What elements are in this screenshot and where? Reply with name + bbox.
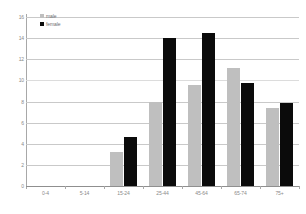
x-axis-line [26,186,299,187]
x-tick-label: 0-4 [26,190,65,204]
bar-group [65,17,104,186]
y-tick-label: 0 [2,183,24,189]
bar-male [227,68,240,186]
x-tick-mark [260,186,261,189]
legend-swatch-female-icon [40,22,44,26]
bar-female [202,33,215,186]
y-axis: 0246810121416 [0,0,24,214]
bar-group [260,17,299,186]
bar-groups [26,17,299,186]
y-tick-label: 14 [2,35,24,41]
x-tick-mark [221,186,222,189]
legend-label-female: female [46,21,60,27]
x-tick-label: 65-74 [221,190,260,204]
legend-swatch-male-icon [40,14,44,18]
x-tick-label: 5-14 [65,190,104,204]
bar-group [104,17,143,186]
y-tick-label: 12 [2,56,24,62]
bar-group [221,17,260,186]
bar-female [241,83,254,187]
bar-female [280,103,293,186]
x-tick-label: 25-44 [143,190,182,204]
bar-male [149,102,162,187]
x-tick-mark [299,186,300,189]
bar-group [182,17,221,186]
y-tick-label: 8 [2,99,24,105]
x-tick-label: 75+ [260,190,299,204]
bar-female [124,137,137,186]
bar-male [110,152,123,186]
bar-group [143,17,182,186]
legend-item-male: male [40,13,60,19]
x-tick-mark [65,186,66,189]
x-axis: 0-45-1415-2425-4445-6465-7475+ [26,190,299,204]
bar-group [26,17,65,186]
y-tick-label: 10 [2,77,24,83]
y-tick-label: 2 [2,162,24,168]
legend: male female [40,13,60,27]
x-tick-mark [182,186,183,189]
legend-item-female: female [40,21,60,27]
legend-label-male: male [46,13,56,19]
x-tick-label: 15-24 [104,190,143,204]
y-tick-label: 6 [2,120,24,126]
y-tick-label: 16 [2,14,24,20]
bar-female [163,38,176,186]
bar-male [266,108,279,186]
x-tick-label: 45-64 [182,190,221,204]
x-tick-mark [104,186,105,189]
x-tick-mark [143,186,144,189]
bar-male [188,85,201,186]
bar-chart: 0246810121416 0-45-1415-2425-4445-6465-7… [0,0,306,214]
plot-area [26,17,299,186]
y-tick-label: 4 [2,141,24,147]
